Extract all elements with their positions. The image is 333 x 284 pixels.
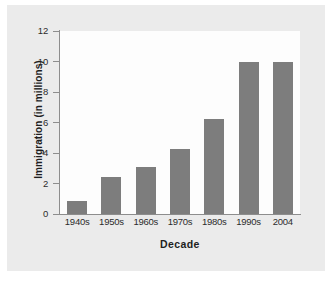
bar-slot bbox=[231, 31, 265, 214]
x-axis-tick-label: 1970s bbox=[163, 217, 197, 227]
y-axis-tick bbox=[53, 92, 60, 93]
bar bbox=[170, 149, 190, 214]
x-axis-tick-label: 1950s bbox=[94, 217, 128, 227]
x-axis-tick-label: 1990s bbox=[231, 217, 265, 227]
y-axis-tick bbox=[53, 214, 60, 215]
x-axis-title: Decade bbox=[60, 238, 300, 250]
bar bbox=[136, 167, 156, 214]
y-axis-tick bbox=[53, 183, 60, 184]
x-axis-tick-label: 1980s bbox=[197, 217, 231, 227]
x-axis-tick-label: 2004 bbox=[266, 217, 300, 227]
bar-slot bbox=[94, 31, 128, 214]
x-axis-tick-label: 1940s bbox=[60, 217, 94, 227]
bar bbox=[273, 62, 293, 214]
bar-slot bbox=[163, 31, 197, 214]
bars-layer bbox=[60, 31, 300, 214]
bar-slot bbox=[129, 31, 163, 214]
bar bbox=[239, 62, 259, 214]
bar bbox=[204, 119, 224, 214]
y-axis-tick bbox=[53, 153, 60, 154]
bar bbox=[67, 201, 87, 214]
bar-slot bbox=[60, 31, 94, 214]
x-axis-tick-label: 1960s bbox=[129, 217, 163, 227]
bar-chart-figure: 024681012 1940s1950s1960s1970s1980s1990s… bbox=[0, 0, 333, 284]
y-axis-tick bbox=[53, 61, 60, 62]
y-axis-tick bbox=[53, 122, 60, 123]
y-axis-title: Immigration (in millions) bbox=[33, 20, 44, 220]
bar-slot bbox=[266, 31, 300, 214]
y-axis-tick bbox=[53, 31, 60, 32]
bar bbox=[101, 177, 121, 214]
bar-slot bbox=[197, 31, 231, 214]
x-axis-tick-labels: 1940s1950s1960s1970s1980s1990s2004 bbox=[60, 217, 300, 231]
